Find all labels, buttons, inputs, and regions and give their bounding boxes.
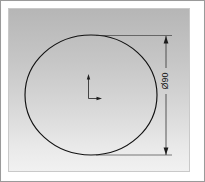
cad-drawing-screenshot: Ø90 — [0, 0, 205, 182]
drawing-canvas[interactable] — [8, 8, 190, 172]
